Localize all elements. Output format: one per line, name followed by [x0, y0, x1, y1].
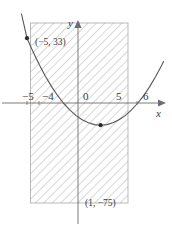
marked-point-vertex: [99, 123, 103, 127]
x-tick-label-minus-four: −4: [42, 91, 54, 102]
annotation-left-endpoint: (−5, 33): [35, 38, 66, 48]
x-tick-label-six: 6: [143, 91, 149, 102]
annotation-vertex: (1, −75): [85, 199, 116, 209]
marked-point-left-endpoint: [25, 36, 29, 40]
y-axis-label: y: [68, 18, 73, 29]
parabola-figure: −5 −4 0 5 6 x y (−5, 33) (1, −75): [0, 0, 172, 229]
x-tick-label-five: 5: [116, 91, 122, 102]
plot-canvas: [0, 0, 172, 229]
x-axis-label: x: [156, 108, 161, 119]
x-tick-label-zero: 0: [83, 91, 89, 102]
shaded-region-hatch: [31, 23, 129, 203]
x-axis-arrowhead: [158, 99, 166, 106]
x-tick-label-minus-five: −5: [22, 91, 34, 102]
